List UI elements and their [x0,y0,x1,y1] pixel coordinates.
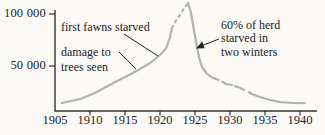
x-tick-label-1915: 1915 [108,114,142,127]
deer-population-chart: 100 000 50 000 1905 1910 1915 1920 1925 … [0,0,325,135]
annotation-line: two winters [221,46,280,59]
annotation-first-fawns-starved: first fawns starved [61,21,150,34]
y-tick-label-100000: 100 000 [0,7,46,20]
x-tick-label-1925: 1925 [178,114,212,127]
x-tick-label-1930: 1930 [213,114,247,127]
x-tick-label-1935: 1935 [248,114,282,127]
x-tick-label-1920: 1920 [143,114,177,127]
annotation-line: damage to [61,45,111,60]
annotation-herd-starved: 60% of herd starved in two winters [221,19,280,59]
annotation-line: 60% of herd [221,19,280,32]
annotation-line: starved in [221,32,280,45]
annotation-line: trees seen [61,60,111,75]
x-tick-label-1910: 1910 [73,114,107,127]
x-tick-label-1940: 1940 [283,114,317,127]
y-tick-label-50000: 50 000 [0,59,46,72]
x-tick-label-1905: 1905 [38,114,72,127]
annotation-line: first fawns starved [61,21,150,34]
annotation-damage-to-trees: damage to trees seen [61,45,111,75]
